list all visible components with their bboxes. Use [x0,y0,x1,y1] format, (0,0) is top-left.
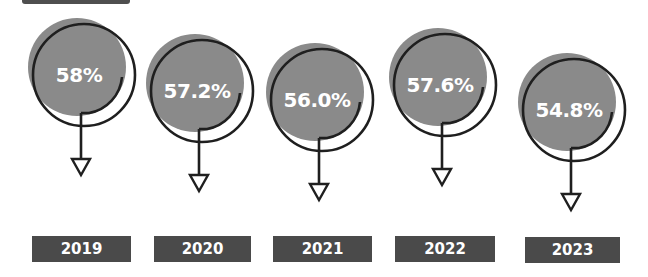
down-arrow-triangle-icon [310,184,328,200]
year-label-2022: 2022 [395,236,495,262]
down-arrow-triangle-icon [190,175,208,191]
value-label: 57.6% [407,73,474,97]
year-label-2019: 2019 [32,236,131,262]
year-label-2020: 2020 [154,236,251,262]
value-label: 57.2% [164,79,231,103]
value-label: 56.0% [284,88,351,112]
value-marker-2021: 56.0% [266,43,373,200]
year-label-2021: 2021 [273,236,372,262]
value-marker-2022: 57.6% [389,28,496,185]
down-arrow-triangle-icon [562,194,580,210]
value-marker-2023: 54.8% [518,53,625,210]
value-label: 58% [56,63,103,87]
year-label-2023: 2023 [525,237,620,263]
value-marker-2019: 58% [28,18,135,175]
value-label: 54.8% [536,98,603,122]
down-arrow-triangle-icon [72,159,90,175]
value-marker-2020: 57.2% [146,34,253,191]
down-arrow-triangle-icon [433,169,451,185]
